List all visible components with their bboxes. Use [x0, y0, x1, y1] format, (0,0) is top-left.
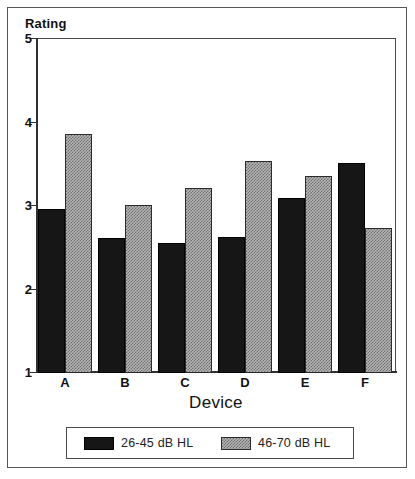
y-tick-label: 3	[12, 198, 32, 213]
y-tick-label: 1	[12, 365, 32, 380]
x-tick-label-A: A	[45, 375, 85, 390]
x-axis-title: Device	[36, 393, 396, 413]
x-tick-label-C: C	[165, 375, 205, 390]
x-tick-label-F: F	[345, 375, 385, 390]
legend-label-46-70: 46-70 dB HL	[258, 436, 330, 450]
x-tick-label-D: D	[225, 375, 265, 390]
legend-swatch-icon-solid-black	[84, 437, 114, 450]
chart-screenshot: Rating 12345 ABCDEF Device 26-45 dB HL 4…	[0, 0, 415, 479]
y-axis-title: Rating	[25, 16, 67, 31]
plot-area-frame	[36, 38, 396, 372]
legend-label-26-45: 26-45 dB HL	[121, 436, 193, 450]
y-tick-label: 4	[12, 114, 32, 129]
y-tick-label: 5	[12, 31, 32, 46]
x-tick-label-E: E	[285, 375, 325, 390]
legend: 26-45 dB HL 46-70 dB HL	[66, 427, 354, 459]
legend-swatch-icon-dotted-gray	[221, 437, 251, 450]
x-axis-line	[36, 371, 397, 373]
y-tick-label: 2	[12, 281, 32, 296]
legend-entry-46-70: 46-70 dB HL	[221, 436, 330, 450]
x-tick-label-B: B	[105, 375, 145, 390]
legend-entry-26-45: 26-45 dB HL	[84, 436, 193, 450]
